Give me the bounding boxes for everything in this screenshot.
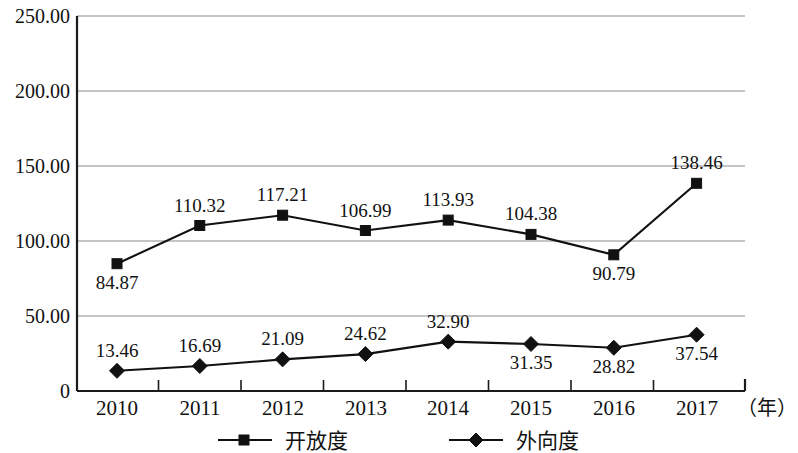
data-point-label: 24.62 — [344, 323, 387, 344]
line-chart-figure: 250.00 200.00 150.00 100.00 50.00 0 2010… — [0, 0, 798, 453]
legend-item-waixiangdu[interactable]: 外向度 — [449, 429, 579, 453]
y-tick-label-250: 250.00 — [15, 5, 70, 27]
diamond-marker-icon — [524, 336, 539, 351]
x-axis-unit-label: （年） — [737, 397, 797, 419]
x-tick-label-2011: 2011 — [179, 396, 220, 420]
square-marker-icon — [609, 250, 619, 260]
series-kaifangdu: 84.87110.32117.21106.99113.93104.3890.79… — [96, 152, 723, 292]
square-marker-icon — [692, 178, 702, 188]
square-marker-icon — [526, 229, 536, 239]
chart-legend: 开放度 外向度 — [218, 429, 579, 453]
data-point-label: 106.99 — [339, 200, 391, 221]
diamond-marker-icon — [275, 352, 290, 367]
square-marker-icon — [112, 259, 122, 269]
data-point-label: 110.32 — [174, 195, 226, 216]
series-kaifangdu-markers — [112, 178, 702, 268]
data-point-label: 13.46 — [96, 340, 139, 361]
legend-label-kaifangdu: 开放度 — [285, 429, 348, 453]
data-point-label: 84.87 — [96, 272, 139, 293]
data-point-label: 138.46 — [670, 152, 722, 173]
diamond-marker-icon — [192, 358, 207, 373]
y-tick-label-0: 0 — [60, 380, 70, 402]
x-tick-label-2015: 2015 — [510, 396, 552, 420]
data-point-label: 117.21 — [257, 184, 309, 205]
square-marker-icon — [278, 210, 288, 220]
data-point-label: 21.09 — [261, 328, 304, 349]
legend-label-waixiangdu: 外向度 — [516, 429, 579, 453]
data-point-label: 113.93 — [422, 189, 474, 210]
y-tick-label-50: 50.00 — [25, 305, 70, 327]
x-axis-tick-labels: 2010 2011 2012 2013 2014 2015 2016 2017 … — [96, 396, 797, 420]
x-tick-label-2016: 2016 — [593, 396, 635, 420]
data-point-label: 16.69 — [178, 335, 221, 356]
y-tick-label-150: 150.00 — [15, 155, 70, 177]
diamond-marker-icon — [469, 433, 483, 447]
x-tick-label-2010: 2010 — [96, 396, 138, 420]
series-waixiangdu: 13.4616.6921.0924.6232.9031.3528.8237.54 — [96, 311, 719, 379]
y-tick-label-200: 200.00 — [15, 80, 70, 102]
diamond-marker-icon — [358, 347, 373, 362]
data-point-label: 31.35 — [510, 352, 553, 373]
diamond-marker-icon — [441, 334, 456, 349]
diamond-marker-icon — [689, 327, 704, 342]
legend-item-kaifangdu[interactable]: 开放度 — [218, 429, 348, 453]
x-tick-label-2014: 2014 — [427, 396, 470, 420]
data-point-label: 28.82 — [592, 356, 635, 377]
square-marker-icon — [195, 221, 205, 231]
data-point-label: 32.90 — [427, 311, 470, 332]
diamond-marker-icon — [110, 363, 125, 378]
data-point-label: 90.79 — [592, 263, 635, 284]
square-marker-icon — [443, 215, 453, 225]
y-axis-tick-labels: 250.00 200.00 150.00 100.00 50.00 0 — [15, 5, 70, 402]
data-point-label: 37.54 — [675, 343, 718, 364]
y-tick-label-100: 100.00 — [15, 230, 70, 252]
series-kaifangdu-point-labels: 84.87110.32117.21106.99113.93104.3890.79… — [96, 152, 723, 292]
x-tick-label-2017: 2017 — [676, 396, 718, 420]
data-point-label: 104.38 — [505, 203, 557, 224]
x-tick-marks — [159, 380, 654, 391]
square-marker-icon — [239, 435, 249, 445]
x-tick-label-2013: 2013 — [345, 396, 387, 420]
chart-canvas: 250.00 200.00 150.00 100.00 50.00 0 2010… — [0, 0, 798, 453]
diamond-marker-icon — [606, 340, 621, 355]
gridlines — [77, 16, 745, 316]
x-tick-label-2012: 2012 — [262, 396, 304, 420]
square-marker-icon — [360, 226, 370, 236]
